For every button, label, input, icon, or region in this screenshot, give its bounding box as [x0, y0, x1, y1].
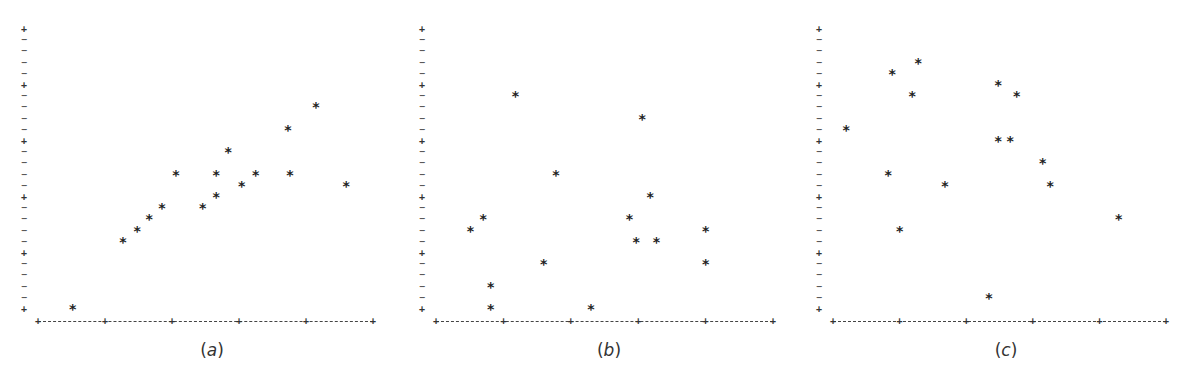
x-axis-major-tick: + — [897, 316, 903, 326]
y-axis-major-tick: + — [21, 192, 27, 202]
y-axis-major-tick: + — [419, 304, 425, 314]
y-axis-minor-tick: − — [21, 125, 27, 135]
y-axis-minor-tick: − — [419, 58, 425, 68]
x-axis-major-tick: + — [102, 316, 108, 326]
data-point-star: * — [638, 112, 646, 126]
y-axis-major-tick: + — [419, 192, 425, 202]
y-axis-minor-tick: − — [21, 181, 27, 191]
data-point-star: * — [486, 280, 494, 294]
data-point-star: * — [1006, 134, 1014, 148]
y-axis-minor-tick: − — [419, 259, 425, 269]
data-point-star: * — [511, 89, 519, 103]
x-axis-major-tick: + — [1030, 316, 1036, 326]
y-axis-minor-tick: − — [21, 170, 27, 180]
data-point-star: * — [212, 168, 220, 182]
data-point-star: * — [286, 168, 294, 182]
y-axis-minor-tick: − — [816, 147, 822, 157]
y-axis-minor-tick: − — [816, 226, 822, 236]
x-axis-line — [436, 321, 773, 322]
panel-caption: (b) — [597, 340, 621, 360]
y-axis-minor-tick: − — [419, 46, 425, 56]
data-point-star: * — [941, 179, 949, 193]
y-axis-minor-tick: − — [816, 181, 822, 191]
y-axis-minor-tick: − — [21, 58, 27, 68]
data-point-star: * — [1013, 89, 1021, 103]
data-point-star: * — [842, 123, 850, 137]
data-point-star: * — [342, 179, 350, 193]
x-axis-major-tick: + — [303, 316, 309, 326]
data-point-star: * — [237, 179, 245, 193]
y-axis-minor-tick: − — [816, 69, 822, 79]
y-axis-minor-tick: − — [21, 69, 27, 79]
data-point-star: * — [701, 257, 709, 271]
y-axis-major-tick: + — [816, 192, 822, 202]
y-axis-minor-tick: − — [419, 203, 425, 213]
data-point-star: * — [1114, 212, 1122, 226]
y-axis-major-tick: + — [419, 136, 425, 146]
data-point-star: * — [199, 201, 207, 215]
data-point-star: * — [884, 168, 892, 182]
y-axis-major-tick: + — [419, 248, 425, 258]
y-axis-major-tick: + — [816, 304, 822, 314]
y-axis-minor-tick: − — [419, 114, 425, 124]
panel-caption: (c) — [995, 340, 1018, 360]
data-point-star: * — [172, 168, 180, 182]
panel-caption: (a) — [200, 340, 224, 360]
y-axis-minor-tick: − — [816, 237, 822, 247]
y-axis-minor-tick: − — [419, 102, 425, 112]
data-point-star: * — [252, 168, 260, 182]
y-axis-minor-tick: − — [21, 35, 27, 45]
y-axis-major-tick: + — [21, 304, 27, 314]
y-axis-major-tick: + — [21, 24, 27, 34]
data-point-star: * — [985, 291, 993, 305]
y-axis-minor-tick: − — [816, 170, 822, 180]
y-axis-minor-tick: − — [816, 35, 822, 45]
y-axis-minor-tick: − — [21, 91, 27, 101]
x-axis-major-tick: + — [433, 316, 439, 326]
y-axis-minor-tick: − — [816, 282, 822, 292]
y-axis-minor-tick: − — [419, 282, 425, 292]
y-axis-minor-tick: − — [419, 293, 425, 303]
y-axis-major-tick: + — [419, 24, 425, 34]
data-point-star: * — [145, 212, 153, 226]
data-point-star: * — [479, 212, 487, 226]
x-axis-major-tick: + — [830, 316, 836, 326]
data-point-star: * — [888, 67, 896, 81]
y-axis-minor-tick: − — [419, 35, 425, 45]
y-axis-minor-tick: − — [419, 181, 425, 191]
y-axis-minor-tick: − — [21, 259, 27, 269]
data-point-star: * — [119, 235, 127, 249]
x-axis-major-tick: + — [1163, 316, 1169, 326]
data-point-star: * — [587, 302, 595, 316]
data-point-star: * — [908, 89, 916, 103]
x-axis-major-tick: + — [635, 316, 641, 326]
y-axis-minor-tick: − — [816, 114, 822, 124]
y-axis-minor-tick: − — [816, 91, 822, 101]
x-axis-major-tick: + — [370, 316, 376, 326]
y-axis-minor-tick: − — [21, 226, 27, 236]
y-axis-minor-tick: − — [419, 170, 425, 180]
x-axis-line — [833, 321, 1166, 322]
data-point-star: * — [552, 168, 560, 182]
y-axis-minor-tick: − — [816, 102, 822, 112]
y-axis-minor-tick: − — [816, 259, 822, 269]
data-point-star: * — [133, 224, 141, 238]
y-axis-major-tick: + — [419, 80, 425, 90]
y-axis-minor-tick: − — [419, 91, 425, 101]
y-axis-minor-tick: − — [419, 69, 425, 79]
y-axis-minor-tick: − — [816, 125, 822, 135]
data-point-star: * — [994, 134, 1002, 148]
data-point-star: * — [994, 78, 1002, 92]
y-axis-minor-tick: − — [21, 237, 27, 247]
x-axis-major-tick: + — [568, 316, 574, 326]
x-axis-major-tick: + — [770, 316, 776, 326]
y-axis-minor-tick: − — [816, 58, 822, 68]
y-axis-minor-tick: − — [419, 226, 425, 236]
data-point-star: * — [1046, 179, 1054, 193]
y-axis-major-tick: + — [816, 24, 822, 34]
y-axis-minor-tick: − — [21, 102, 27, 112]
data-point-star: * — [540, 257, 548, 271]
y-axis-minor-tick: − — [816, 203, 822, 213]
y-axis-minor-tick: − — [21, 214, 27, 224]
y-axis-minor-tick: − — [419, 125, 425, 135]
